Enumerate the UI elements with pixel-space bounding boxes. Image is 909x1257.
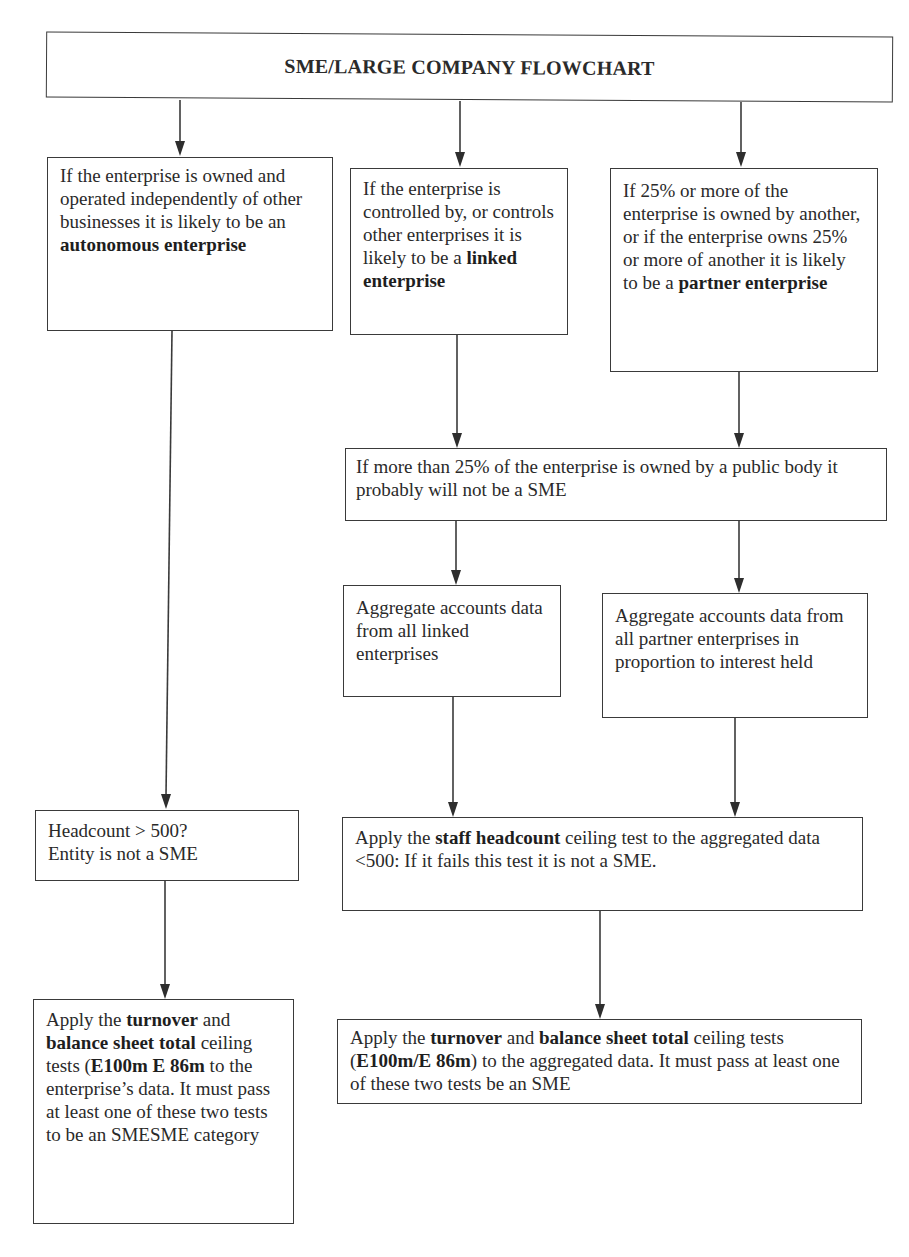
box-text: Aggregate accounts data from all partner… (615, 605, 843, 672)
headcount-check-box: Headcount > 500? Entity is not a SME (35, 810, 299, 881)
flowchart-title: SME/LARGE COMPANY FLOWCHART (46, 31, 893, 102)
autonomous-enterprise-box: If the enterprise is owned and operated … (47, 157, 333, 331)
box-text: and (198, 1009, 230, 1030)
box-text-line1: Headcount > 500? (48, 819, 286, 842)
box-bold-text: E100m/E 86m (356, 1050, 471, 1071)
box-bold-text: partner enterprise (678, 272, 827, 293)
box-text: If more than 25% of the enterprise is ow… (356, 456, 838, 500)
box-bold-text: balance sheet total (539, 1027, 689, 1048)
box-bold-text: staff headcount (435, 827, 560, 848)
turnover-balance-left-box: Apply the turnover and balance sheet tot… (33, 999, 294, 1224)
box-bold-text: turnover (430, 1027, 502, 1048)
box-bold-text: turnover (126, 1009, 198, 1030)
box-text: Apply the (350, 1027, 430, 1048)
aggregate-partner-box: Aggregate accounts data from all partner… (602, 593, 868, 718)
box-text-line2: Entity is not a SME (48, 842, 286, 865)
public-body-box: If more than 25% of the enterprise is ow… (345, 448, 887, 521)
arrow-autonomous-to-headcount (166, 331, 172, 796)
box-text: Apply the (46, 1009, 126, 1030)
box-bold-text: E100m E 86m (91, 1055, 205, 1076)
linked-enterprise-box: If the enterprise is controlled by, or c… (350, 168, 568, 335)
box-text: Aggregate accounts data from all linked … (356, 597, 543, 664)
box-bold-text: autonomous enterprise (60, 234, 246, 255)
turnover-balance-right-box: Apply the turnover and balance sheet tot… (337, 1019, 862, 1104)
box-bold-text: balance sheet total (46, 1032, 196, 1053)
box-text: and (502, 1027, 539, 1048)
box-text: If the enterprise is controlled by, or c… (363, 178, 554, 268)
title-text: SME/LARGE COMPANY FLOWCHART (284, 54, 654, 79)
aggregate-linked-box: Aggregate accounts data from all linked … (343, 585, 561, 697)
partner-enterprise-box: If 25% or more of the enterprise is owne… (610, 168, 878, 372)
staff-headcount-box: Apply the staff headcount ceiling test t… (342, 817, 863, 911)
box-text: Apply the (355, 827, 435, 848)
box-text: If the enterprise is owned and operated … (60, 165, 302, 232)
